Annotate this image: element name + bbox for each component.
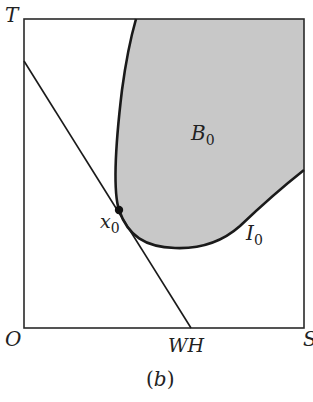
origin-label: O <box>5 327 21 351</box>
x-axis-end-label: S <box>303 327 313 351</box>
diagram-canvas: T O WH S B0 x0 I0 (b) <box>0 0 313 402</box>
tangency-point <box>115 206 123 214</box>
point-label: x0 <box>100 210 120 236</box>
y-axis-label: T <box>5 3 20 27</box>
x-intercept-label: WH <box>168 334 205 356</box>
figure-caption: (b) <box>146 367 174 391</box>
curve-label: I0 <box>245 221 263 248</box>
